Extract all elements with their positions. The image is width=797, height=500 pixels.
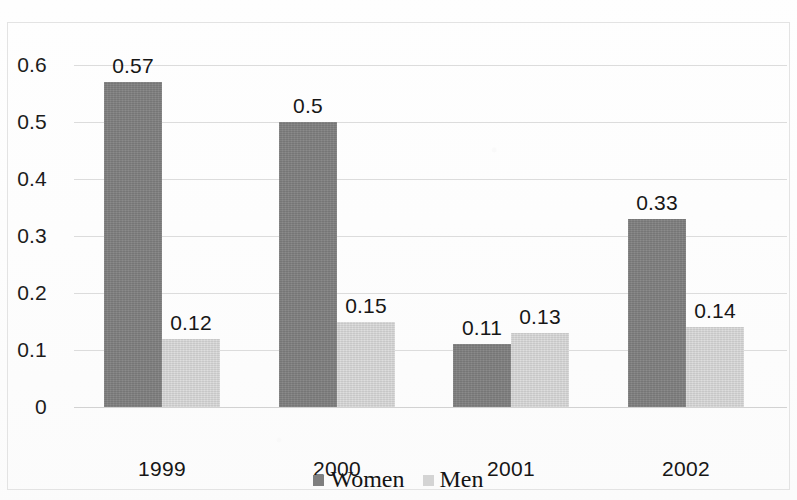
y-axis-tick-label: 0.6 bbox=[0, 53, 47, 77]
bar-women-1999: 0.57 bbox=[104, 82, 162, 407]
bar-women-2002: 0.33 bbox=[628, 219, 686, 407]
plot-area: 0.60.50.40.30.20.10 0.570.120.50.150.110… bbox=[74, 65, 787, 407]
legend-label: Women bbox=[330, 466, 404, 493]
bar-group: 0.570.12 bbox=[104, 65, 220, 407]
y-axis-tick-label: 0.1 bbox=[0, 338, 47, 362]
bar-men-2000: 0.15 bbox=[337, 322, 395, 408]
legend-item-women[interactable]: Women bbox=[313, 466, 404, 493]
bar-women-2000: 0.5 bbox=[279, 122, 337, 407]
legend-item-men[interactable]: Men bbox=[423, 466, 484, 493]
legend-swatch-icon bbox=[313, 475, 324, 486]
legend-swatch-icon bbox=[423, 475, 434, 486]
gridline bbox=[74, 407, 787, 408]
bar-group: 0.110.13 bbox=[453, 65, 569, 407]
bar-group: 0.50.15 bbox=[279, 65, 395, 407]
bar-value-label: 0.5 bbox=[293, 94, 323, 118]
bar-value-label: 0.15 bbox=[345, 294, 387, 318]
y-axis-tick-label: 0 bbox=[0, 395, 47, 419]
y-axis-tick-label: 0.2 bbox=[0, 281, 47, 305]
bar-value-label: 0.13 bbox=[519, 305, 561, 329]
y-axis-tick-label: 0.5 bbox=[0, 110, 47, 134]
bar-men-2002: 0.14 bbox=[686, 327, 744, 407]
bar-women-2001: 0.11 bbox=[453, 344, 511, 407]
y-axis-tick-label: 0.3 bbox=[0, 224, 47, 248]
bar-value-label: 0.11 bbox=[462, 316, 502, 340]
bar-group: 0.330.14 bbox=[628, 65, 744, 407]
chart-legend: WomenMen bbox=[8, 466, 789, 493]
bar-value-label: 0.33 bbox=[636, 191, 678, 215]
bar-value-label: 0.12 bbox=[170, 311, 212, 335]
bar-men-1999: 0.12 bbox=[162, 339, 220, 407]
chart-page-background: 0.60.50.40.30.20.10 0.570.120.50.150.110… bbox=[0, 0, 797, 500]
chart-frame: 0.60.50.40.30.20.10 0.570.120.50.150.110… bbox=[7, 22, 790, 490]
bar-value-label: 0.57 bbox=[112, 54, 154, 78]
bar-value-label: 0.14 bbox=[694, 299, 736, 323]
legend-label: Men bbox=[440, 466, 484, 493]
bar-men-2001: 0.13 bbox=[511, 333, 569, 407]
y-axis-tick-label: 0.4 bbox=[0, 167, 47, 191]
